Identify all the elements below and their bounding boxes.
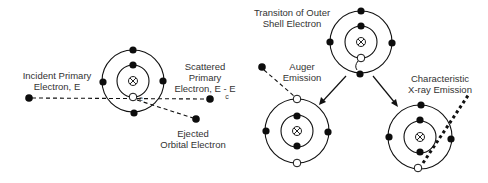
arrow-to-xray	[373, 76, 398, 107]
vacancy-icon	[414, 164, 422, 172]
electron-icon	[388, 39, 395, 46]
electron-icon	[356, 70, 363, 77]
electron-icon	[416, 116, 423, 123]
auger-electron-icon	[258, 63, 266, 71]
auger-label-line1: Auger	[289, 61, 314, 72]
arrow-to-auger	[319, 76, 346, 105]
nucleus-icon	[129, 77, 138, 86]
atom-ionization	[99, 46, 166, 116]
electron-icon	[326, 38, 333, 45]
ionization-panel: e Incident Primary Electron, E Scattered…	[23, 46, 236, 150]
electron-icon	[129, 61, 136, 68]
atom-xray	[385, 101, 454, 171]
ejected-label-line1: Ejected	[177, 128, 209, 139]
atom-transition	[326, 7, 395, 77]
electron-icon	[99, 78, 106, 85]
nucleus-icon	[293, 127, 302, 136]
electron-icon	[293, 142, 300, 149]
electron-icon	[357, 22, 364, 29]
transition-label-line1: Transiton of Outer	[254, 7, 330, 18]
electron-icon	[357, 7, 364, 14]
electron-icon	[159, 77, 166, 84]
electron-icon	[129, 46, 136, 53]
xray-panel: Characteristic X-ray Emission	[385, 73, 472, 172]
incident-label-line2: Electron, E	[34, 81, 80, 92]
primary-trajectory-line	[32, 98, 207, 99]
transition-label-line2: Shell Electron	[263, 18, 322, 29]
scattered-electron-icon	[206, 95, 214, 103]
electron-icon	[385, 133, 392, 140]
nucleus-icon	[416, 133, 425, 142]
electron-icon	[324, 128, 331, 135]
auger-label-line2: Emission	[283, 72, 322, 83]
diagram-stage: e Incident Primary Electron, E Scattered…	[0, 0, 488, 183]
electron-icon	[416, 148, 423, 155]
xray-photon-line	[423, 94, 469, 163]
electron-icon	[293, 112, 300, 119]
electron-icon	[262, 127, 269, 134]
scattered-label-line1: Scattered	[185, 61, 226, 72]
electron-icon	[130, 109, 137, 116]
electron-icon	[417, 101, 424, 108]
scattered-label-line2: Primary	[189, 72, 222, 83]
incident-electron-icon	[25, 94, 33, 102]
scattered-subscript: c	[225, 93, 229, 100]
vacancy-icon	[293, 95, 301, 103]
vacancy-icon	[357, 54, 365, 62]
vacancy-icon	[129, 93, 137, 101]
xray-label-line2: X-ray Emission	[408, 84, 472, 95]
transition-panel: Transiton of Outer Shell Electron	[254, 7, 398, 107]
xray-label-line1: Characteristic	[411, 73, 469, 84]
vacancy-icon	[293, 159, 301, 167]
transition-path	[356, 61, 358, 70]
vacancy-mark: e	[139, 95, 143, 102]
incident-label-line1: Incident Primary	[23, 70, 92, 81]
atom-auger	[262, 95, 331, 167]
electron-icon	[447, 135, 454, 142]
ejected-label-line2: Orbital Electron	[160, 139, 225, 150]
diagram-canvas: e Incident Primary Electron, E Scattered…	[0, 0, 488, 183]
ejected-electron-icon	[192, 115, 200, 123]
auger-panel: Auger Emission	[258, 61, 331, 167]
nucleus-icon	[357, 38, 366, 47]
